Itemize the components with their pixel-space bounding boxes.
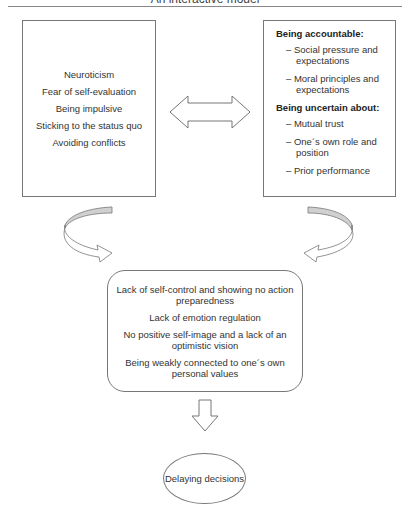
curved-arrow-right-icon bbox=[64, 207, 112, 262]
deficit-item: No positive self-image and a lack of an … bbox=[114, 329, 296, 351]
double-headed-arrow-icon bbox=[170, 96, 250, 128]
deficit-item: Lack of emotion regulation bbox=[149, 312, 260, 323]
outcome-ellipse: Delaying decisions bbox=[163, 453, 246, 504]
down-arrow-icon bbox=[192, 400, 218, 431]
deficit-item: Lack of self-control and showing no acti… bbox=[114, 284, 296, 306]
curved-arrow-left-icon bbox=[304, 207, 353, 262]
self-regulation-deficits-box: Lack of self-control and showing no acti… bbox=[107, 270, 303, 392]
deficit-item: Being weakly connected to one´s own pers… bbox=[114, 357, 296, 379]
outcome-label: Delaying decisions bbox=[165, 473, 244, 484]
